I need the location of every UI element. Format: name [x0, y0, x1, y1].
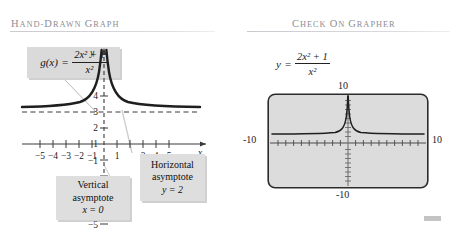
panel-header-hand-drawn: HAND-DRAWN GRAPH	[11, 13, 119, 31]
horizontal-asymptote-callout: Horizontal asymptote y = 2	[140, 154, 205, 201]
grapher-eq-numerator: 2x² + 1	[295, 51, 330, 64]
panel-header-check-on-grapher: CHECK ON GRAPHER	[292, 13, 396, 31]
grapher-label-left: -10	[243, 134, 256, 145]
svg-text:2: 2	[93, 123, 98, 133]
grapher-label-top: 10	[338, 80, 348, 91]
grapher-equation: y = 2x² + 1 x²	[276, 50, 330, 78]
svg-text:−2: −2	[74, 151, 84, 161]
vertical-asymptote-callout: Vertical asymptote x = 0	[56, 176, 130, 220]
header-rest-n: N	[338, 20, 348, 29]
grapher-label-right: 10	[432, 134, 442, 145]
svg-text:4: 4	[93, 91, 98, 101]
grapher-eq-denominator: x²	[307, 64, 319, 77]
figure-page: HAND-DRAWN GRAPH g(x) = 2x² + 1 x²	[0, 0, 459, 240]
header-rest-heck: HECK	[300, 20, 330, 29]
x-axis-arrow	[200, 141, 206, 146]
grapher-screen	[267, 93, 429, 189]
grapher-eq-equals: =	[285, 58, 291, 70]
svg-text:1: 1	[115, 151, 120, 161]
header-cap-d: D	[44, 18, 53, 29]
vertical-callout-line1: Vertical	[77, 179, 108, 192]
horizontal-callout-line2: asymptote	[152, 171, 193, 184]
y-axis-label: y	[89, 48, 95, 58]
svg-text:−5: −5	[35, 151, 45, 161]
horizontal-callout-line3: y = 2	[162, 184, 183, 197]
header-rest-rawn: RAWN	[53, 20, 85, 29]
header-rest-and: AND-	[20, 20, 45, 29]
header-cap-c: C	[292, 18, 300, 29]
grapher-equation-expression: y = 2x² + 1 x²	[276, 51, 330, 78]
header-cap-g2: G	[348, 18, 357, 29]
divider-right	[247, 31, 450, 32]
svg-text:1: 1	[93, 139, 98, 149]
header-cap-h: H	[11, 18, 20, 29]
header-cap-g: G	[85, 18, 94, 29]
svg-text:−4: −4	[48, 151, 58, 161]
svg-text:−1: −1	[88, 156, 98, 166]
curve-right-branch	[106, 50, 200, 107]
vertical-callout-line3: x = 0	[82, 204, 103, 217]
svg-text:−5: −5	[88, 220, 98, 230]
curve-left-branch	[22, 50, 102, 107]
grapher-eq-lhs: y	[276, 58, 281, 70]
svg-text:−3: −3	[61, 151, 71, 161]
header-cap-o: O	[330, 18, 339, 29]
divider-left	[10, 31, 215, 32]
svg-text:3: 3	[93, 107, 98, 117]
header-rest-rapher: RAPHER	[357, 20, 396, 29]
leader-line-formula	[65, 80, 96, 112]
grapher-label-bottom: -10	[336, 189, 349, 200]
horizontal-callout-line1: Horizontal	[151, 159, 194, 172]
header-rest-raph: RAPH	[93, 20, 119, 29]
grapher-eq-fraction: 2x² + 1 x²	[295, 51, 330, 78]
corner-mark	[424, 216, 441, 221]
vertical-callout-line2: asymptote	[72, 192, 113, 205]
